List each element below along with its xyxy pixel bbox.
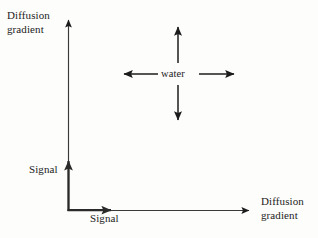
x-axis-inner-label: Signal <box>90 212 119 226</box>
x-axis-right-label: Diffusion gradient <box>261 195 304 222</box>
y-axis-top-label-line2: gradient <box>7 23 50 37</box>
x-axis-right-label-line1: Diffusion <box>261 195 304 209</box>
diffusion-gradient-diagram: Diffusion gradient Signal Signal Diffusi… <box>0 0 318 238</box>
y-axis-top-label: Diffusion gradient <box>7 9 50 36</box>
y-axis-inner-label: Signal <box>29 163 58 177</box>
y-axis-top-label-line1: Diffusion <box>7 9 50 23</box>
x-axis-right-label-line2: gradient <box>261 209 304 223</box>
water-center-label: water <box>161 67 185 81</box>
